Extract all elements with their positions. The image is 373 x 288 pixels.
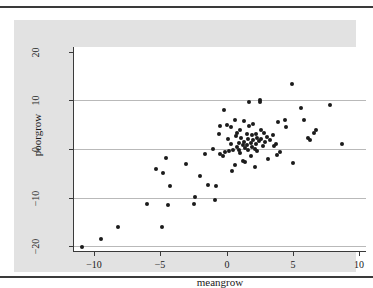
- scatter-point: [246, 148, 250, 152]
- scatter-point: [193, 195, 197, 199]
- scatter-point: [229, 125, 233, 129]
- x-tick--5: [160, 251, 161, 256]
- scatter-point: [221, 154, 225, 158]
- scatter-point: [238, 128, 242, 132]
- y-tick-20: [69, 52, 74, 53]
- x-tick-label-0: 0: [207, 259, 247, 270]
- scatter-point: [116, 225, 120, 229]
- x-tick-label--10: −10: [74, 259, 114, 270]
- scatter-point: [222, 108, 226, 112]
- scatter-point: [262, 131, 266, 135]
- gridline-y-10: [74, 100, 366, 101]
- x-tick-5: [293, 251, 294, 256]
- x-axis-line: [73, 251, 366, 252]
- scatter-point: [290, 82, 294, 86]
- scatter-point: [225, 123, 229, 127]
- scatter-point: [184, 162, 188, 166]
- scatter-point: [214, 184, 218, 188]
- scatter-point: [242, 119, 246, 123]
- scatter-point: [160, 225, 164, 229]
- scatter-point: [245, 143, 249, 147]
- y-tick-label--10: −10: [30, 179, 41, 219]
- y-tick-0: [69, 149, 74, 150]
- scatter-point: [283, 118, 287, 122]
- scatter-point: [274, 142, 278, 146]
- graph-region: −20−1001020−10−50510 poorgrow meangrow: [14, 20, 356, 272]
- scatter-point: [99, 237, 103, 241]
- scatter-point: [258, 100, 262, 104]
- scatter-point: [261, 144, 265, 148]
- scatter-point: [213, 198, 217, 202]
- x-tick-label--5: −5: [140, 259, 180, 270]
- scatter-point: [192, 202, 196, 206]
- y-tick--20: [69, 246, 74, 247]
- scatter-point: [198, 174, 202, 178]
- top-divider-rule: [0, 6, 373, 8]
- x-tick-label-5: 5: [273, 259, 313, 270]
- scatter-point: [233, 163, 237, 167]
- scatter-point: [168, 184, 172, 188]
- scatter-point: [291, 161, 295, 165]
- scatter-point: [271, 133, 275, 137]
- x-tick--10: [94, 251, 95, 256]
- y-axis-title: poorgrow: [31, 95, 43, 175]
- scatter-point: [238, 151, 242, 155]
- gridline-y--10: [74, 198, 366, 199]
- scatter-point: [164, 156, 168, 160]
- y-tick--10: [69, 198, 74, 199]
- scatter-point: [217, 132, 221, 136]
- scatter-point: [80, 245, 84, 249]
- scatter-point: [302, 118, 306, 122]
- scatter-point: [229, 142, 233, 146]
- y-tick-10: [69, 100, 74, 101]
- scatter-point: [253, 165, 257, 169]
- gridline-y-0: [74, 149, 366, 150]
- y-tick-label--20: −20: [30, 227, 41, 267]
- scatter-point: [233, 118, 237, 122]
- scatter-point: [243, 160, 247, 164]
- x-tick-10: [359, 251, 360, 256]
- x-tick-0: [227, 251, 228, 256]
- x-tick-label-10: 10: [339, 259, 373, 270]
- scatter-point: [314, 128, 318, 132]
- scatter-point: [249, 154, 253, 158]
- y-tick-label-20: 20: [30, 33, 41, 73]
- scatter-point: [237, 141, 241, 145]
- gridline-y--20: [74, 246, 366, 247]
- scatter-point: [266, 157, 270, 161]
- scatter-point: [245, 132, 249, 136]
- x-axis-title: meangrow: [74, 276, 366, 288]
